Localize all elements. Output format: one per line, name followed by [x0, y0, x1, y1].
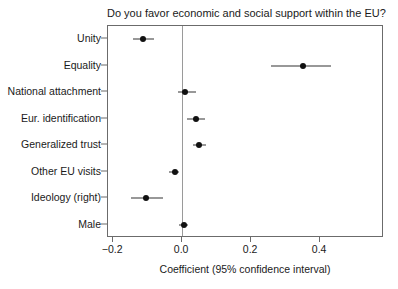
y-axis-label: Male [78, 218, 101, 230]
x-axis-tick [319, 237, 320, 242]
y-axis-label: Ideology (right) [31, 191, 101, 203]
y-axis-tick [101, 223, 107, 224]
y-axis-tick [101, 170, 107, 171]
x-axis-title: Coefficient (95% confidence interval) [107, 263, 383, 275]
y-axis-category-labels: UnityEqualityNational attachmentEur. ide… [0, 25, 101, 237]
y-axis-label: Generalized trust [21, 138, 101, 150]
y-axis-tick [101, 197, 107, 198]
y-axis-tick [101, 38, 107, 39]
chart-title: Do you favor economic and social support… [107, 7, 383, 20]
coefficient-plot: Do you favor economic and social support… [0, 0, 398, 289]
y-axis-label: Eur. identification [21, 112, 101, 124]
x-axis-tick-label: −0.2 [102, 243, 123, 255]
estimate-point [182, 89, 188, 95]
y-axis-tick [101, 117, 107, 118]
y-axis-label: National attachment [8, 85, 101, 97]
x-axis-tick [112, 237, 113, 242]
estimate-point [196, 142, 202, 148]
x-axis-tick-label: 0.4 [312, 243, 327, 255]
y-axis-tick [101, 64, 107, 65]
estimate-point [172, 169, 178, 175]
y-axis-label: Other EU visits [31, 165, 101, 177]
y-axis-label: Unity [77, 32, 101, 44]
y-axis-label: Equality [64, 59, 101, 71]
x-axis-ticks [107, 237, 383, 242]
y-axis-tick [101, 91, 107, 92]
estimate-point [300, 63, 306, 69]
plot-area [107, 25, 383, 237]
x-axis-tick-label: 0.2 [243, 243, 258, 255]
x-axis-tick-label: 0.0 [174, 243, 189, 255]
estimate-point [181, 222, 187, 228]
y-axis-tick [101, 144, 107, 145]
x-axis-tick [181, 237, 182, 242]
estimate-point [143, 195, 149, 201]
estimate-point [140, 36, 146, 42]
estimate-point [193, 116, 199, 122]
zero-reference-line [182, 26, 183, 236]
x-axis-tick [250, 237, 251, 242]
